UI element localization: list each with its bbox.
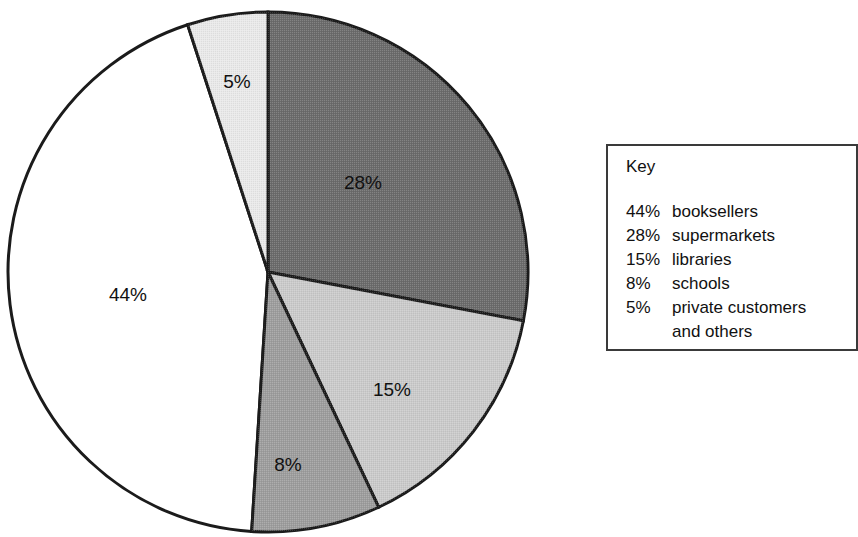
pie-slice-value-label: 8% — [274, 454, 302, 475]
pie-chart-svg: 44%28%15%8%5% — [0, 0, 560, 537]
legend-item: 44%booksellers — [626, 202, 856, 226]
pie-slice-value-label: 15% — [373, 379, 411, 400]
legend-item-label: booksellers — [672, 202, 758, 222]
pie-slice-dither — [268, 12, 528, 321]
legend-item: 15%libraries — [626, 250, 856, 274]
pie-slice-value-label: 44% — [109, 284, 147, 305]
legend-item-label: private customers — [672, 298, 806, 318]
pie-slice-value-label: 5% — [223, 71, 251, 92]
legend-item-percent: 8% — [626, 274, 672, 294]
legend-item: 5%private customers — [626, 298, 856, 322]
legend-title: Key — [626, 157, 655, 177]
legend-item-label: libraries — [672, 250, 732, 270]
legend-item-percent: 5% — [626, 298, 672, 318]
legend-item-percent: 15% — [626, 250, 672, 270]
pie-slice-value-label: 28% — [344, 172, 382, 193]
legend-key-box: Key 44%booksellers28%supermarkets15%libr… — [606, 144, 858, 351]
legend-item-label: schools — [672, 274, 730, 294]
legend-item-percent: 44% — [626, 202, 672, 222]
legend-item: 28%supermarkets — [626, 226, 856, 250]
pie-chart-area: 44%28%15%8%5% — [0, 0, 560, 537]
legend-item-label-continuation: and others — [672, 322, 856, 346]
legend-item-label: supermarkets — [672, 226, 775, 246]
legend-list: 44%booksellers28%supermarkets15%librarie… — [626, 202, 856, 346]
legend-item-percent: 28% — [626, 226, 672, 246]
legend-item: 8%schools — [626, 274, 856, 298]
